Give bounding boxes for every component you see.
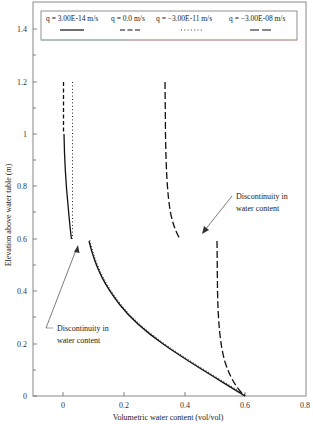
y-tick-label: 0.6 [17, 235, 27, 244]
x-tick-label: 0.2 [119, 401, 129, 410]
annotation-left: Discontinuity in water content [46, 245, 109, 345]
annotation-right-line1: Discontinuity in [236, 192, 288, 201]
annotation-left-line1: Discontinuity in [57, 324, 109, 333]
x-axis [63, 392, 245, 396]
x-tick-label: 0 [61, 401, 65, 410]
y-axis-title: Elevation above water table (m) [4, 163, 13, 266]
y-tick-label: 1.2 [17, 78, 27, 87]
x-tick-label: 0.6 [240, 401, 250, 410]
legend-label-long-dash: q = −3.00E-08 m/s [229, 14, 285, 23]
y-tick-label: 1.4 [17, 25, 27, 34]
y-tick-labels: 0 0.2 0.4 0.6 0.8 1 1.2 1.4 [17, 25, 27, 401]
x-axis-title: Volumetric water content (vol/vol) [113, 413, 224, 422]
legend-label-short-dash: q = 0.0 m/s [111, 14, 145, 23]
y-tick-label: 0 [23, 392, 27, 401]
x-tick-labels: 0 0.2 0.4 0.6 0.8 [61, 401, 310, 410]
legend-label-dotted: q = −3.00E-11 m/s [156, 14, 212, 23]
chart: 0 0.2 0.4 0.6 0.8 1 1.2 1.4 0 0.2 0.4 0.… [0, 0, 313, 424]
y-tick-label: 0.8 [17, 182, 27, 191]
series-dotted [73, 82, 246, 395]
legend-label-solid: q = 3.00E-14 m/s [46, 14, 98, 23]
annotation-right-line2: water content [236, 204, 280, 213]
annotation-left-line2: water content [57, 336, 101, 345]
y-axis [33, 29, 37, 396]
legend: q = 3.00E-14 m/s q = 0.0 m/s q = −3.00E-… [41, 11, 297, 40]
x-tick-label: 0.8 [300, 401, 310, 410]
y-tick-label: 0.4 [17, 287, 27, 296]
annotation-right: Discontinuity in water content [202, 192, 288, 234]
series-long-dash [165, 82, 245, 396]
y-tick-label: 0.2 [17, 340, 27, 349]
y-tick-label: 1 [23, 130, 27, 139]
x-tick-label: 0.4 [180, 401, 190, 410]
